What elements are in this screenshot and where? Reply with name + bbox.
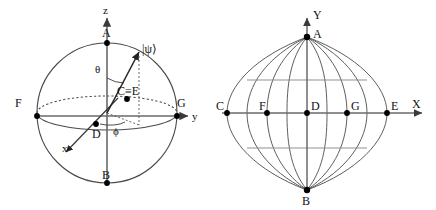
axis-label-X: X <box>412 97 421 111</box>
point-label-A-right: A <box>313 27 322 41</box>
theta-arc <box>107 78 124 83</box>
axis-label-y: y <box>192 110 198 122</box>
angle-label-theta: θ <box>95 63 100 75</box>
point-dot-F-left <box>34 113 40 119</box>
figure-svg: z y x θ ϕ |ψ⟩ A B F G C≡E D <box>0 0 436 210</box>
axis-label-x: x <box>62 142 68 154</box>
bloch-sphere-group: z y x θ ϕ |ψ⟩ A B F G C≡E D <box>15 4 198 186</box>
point-dot-A-right <box>304 34 310 40</box>
sinusoidal-projection-group: Y X A B C F D G E <box>216 8 422 208</box>
figure-container: z y x θ ϕ |ψ⟩ A B F G C≡E D <box>0 0 436 210</box>
state-vector-arrow <box>107 52 139 113</box>
axis-label-z: z <box>103 4 108 16</box>
point-label-B-left: B <box>102 168 110 182</box>
point-label-D-left: D <box>92 127 101 141</box>
point-label-C-right: C <box>216 99 224 113</box>
point-label-F-right: F <box>259 99 266 113</box>
point-dot-A-left <box>104 40 110 46</box>
point-label-G-left: G <box>177 96 186 110</box>
point-dot-G-right <box>344 110 350 116</box>
point-dot-D-right <box>304 110 310 116</box>
point-dot-C-right <box>224 110 230 116</box>
point-label-CE-left: C≡E <box>117 84 139 98</box>
point-label-G-right: G <box>351 99 360 113</box>
point-label-B-right: B <box>302 194 310 208</box>
point-dot-E-right <box>384 110 390 116</box>
state-vector-label: |ψ⟩ <box>142 42 157 56</box>
point-label-F-left: F <box>15 96 22 110</box>
point-label-A-left: A <box>102 26 111 40</box>
point-dot-B-right <box>304 187 310 193</box>
angle-label-phi: ϕ <box>113 125 119 137</box>
axis-label-Y: Y <box>313 8 322 22</box>
point-dot-G-left <box>174 113 180 119</box>
point-label-E-right: E <box>391 99 398 113</box>
point-label-D-right: D <box>311 99 320 113</box>
